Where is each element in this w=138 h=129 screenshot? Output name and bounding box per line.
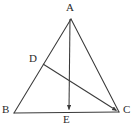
vertex-label-a: A <box>66 2 74 13</box>
segment-ab <box>14 19 71 113</box>
segment-ae-arrow <box>69 19 70 110</box>
segment-ac <box>71 19 119 112</box>
vertex-label-c: C <box>123 104 130 115</box>
vertex-label-d: D <box>29 53 37 64</box>
vertex-label-b: B <box>2 104 9 115</box>
segment-dc-arrow <box>43 64 117 111</box>
vertex-label-e: E <box>63 114 70 125</box>
geometry-figure: A B C D E <box>0 0 138 129</box>
geometry-canvas <box>0 0 138 129</box>
